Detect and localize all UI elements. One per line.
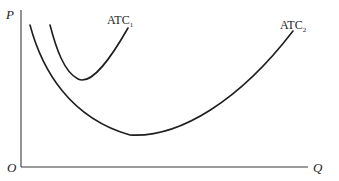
cost-curves-diagram: P O Q ATC1 ATC2 bbox=[0, 0, 339, 181]
x-axis-label: Q bbox=[313, 160, 323, 175]
atc1-label: ATC1 bbox=[107, 13, 134, 29]
y-axis-label: P bbox=[5, 7, 14, 22]
origin-label: O bbox=[7, 160, 17, 175]
atc2-label: ATC2 bbox=[280, 18, 307, 34]
atc1-curve bbox=[50, 25, 128, 80]
atc2-curve bbox=[30, 25, 293, 135]
